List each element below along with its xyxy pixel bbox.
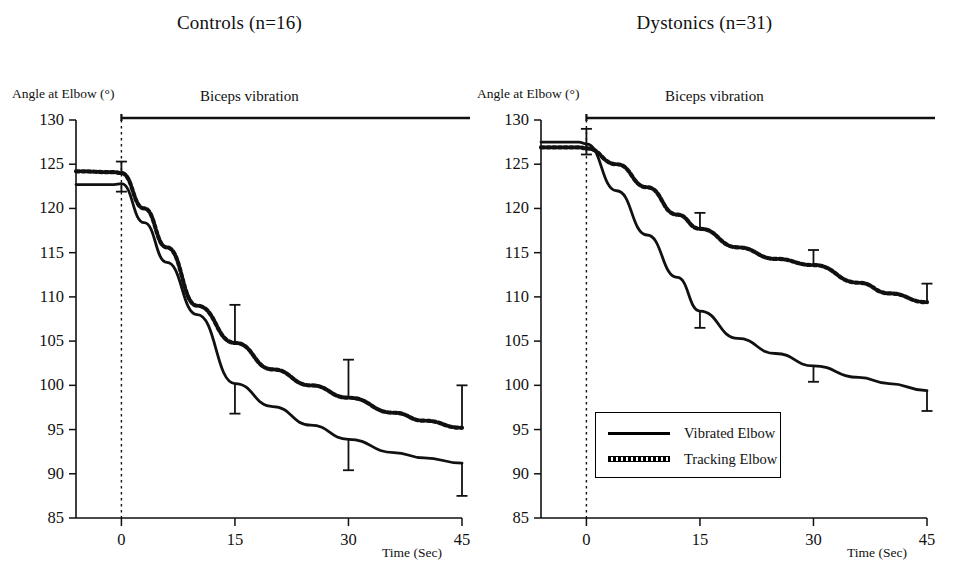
y-tick-label: 90 (513, 464, 530, 483)
x-tick-label: 0 (117, 530, 125, 549)
y-tick-label: 95 (513, 420, 530, 439)
y-tick-label: 115 (505, 243, 529, 262)
series-line-vibrated-elbow (541, 142, 927, 391)
y-tick-label: 115 (40, 243, 64, 262)
y-tick-label: 90 (48, 464, 65, 483)
error-bar (229, 305, 240, 343)
legend-key-dotted-icon (608, 452, 670, 466)
x-tick-label: 30 (805, 530, 822, 549)
panel-dystonics: Dystonics (n=31) Angle at Elbow (°) Bice… (465, 0, 944, 580)
plot-area-dystonics: 8590951001051101151201251300153045 (465, 0, 944, 580)
y-tick-label: 120 (39, 198, 64, 217)
y-tick-label: 110 (40, 287, 64, 306)
series-line-vibrated-elbow (76, 184, 462, 463)
error-bar (343, 439, 354, 470)
legend-label-tracking: Tracking Elbow (684, 451, 777, 468)
y-tick-label: 120 (504, 198, 529, 217)
y-tick-label: 85 (513, 508, 530, 527)
plot-area-controls: 8590951001051101151201251300153045 (0, 0, 479, 580)
y-tick-label: 100 (504, 375, 529, 394)
error-bar (808, 250, 819, 265)
legend-key-solid-icon (608, 426, 670, 440)
x-tick-label: 0 (582, 530, 590, 549)
y-tick-label: 105 (39, 331, 64, 350)
y-tick-label: 110 (505, 287, 529, 306)
figure-container: Controls (n=16) Angle at Elbow (°) Bicep… (0, 0, 959, 580)
x-tick-label: 30 (340, 530, 357, 549)
panel-controls: Controls (n=16) Angle at Elbow (°) Bicep… (0, 0, 479, 580)
y-tick-label: 85 (48, 508, 65, 527)
error-bar (343, 360, 354, 398)
series-line-backbone (541, 147, 927, 302)
x-tick-label: 15 (227, 530, 244, 549)
error-bar (922, 391, 933, 411)
error-bar (808, 366, 819, 382)
error-bar (229, 384, 240, 414)
y-tick-label: 100 (39, 375, 64, 394)
y-tick-label: 130 (39, 110, 64, 129)
legend: Vibrated Elbow Tracking Elbow (595, 412, 781, 478)
error-bar (922, 284, 933, 303)
error-bar (694, 311, 705, 328)
y-tick-label: 125 (39, 154, 64, 173)
series-line-tracking-elbow (541, 147, 927, 302)
y-tick-label: 95 (48, 420, 65, 439)
x-tick-label: 45 (919, 530, 936, 549)
x-tick-label: 15 (692, 530, 709, 549)
legend-item-vibrated: Vibrated Elbow (596, 420, 780, 446)
legend-label-vibrated: Vibrated Elbow (684, 425, 775, 442)
y-tick-label: 130 (504, 110, 529, 129)
y-tick-label: 105 (504, 331, 529, 350)
y-tick-label: 125 (504, 154, 529, 173)
legend-item-tracking: Tracking Elbow (596, 446, 780, 472)
